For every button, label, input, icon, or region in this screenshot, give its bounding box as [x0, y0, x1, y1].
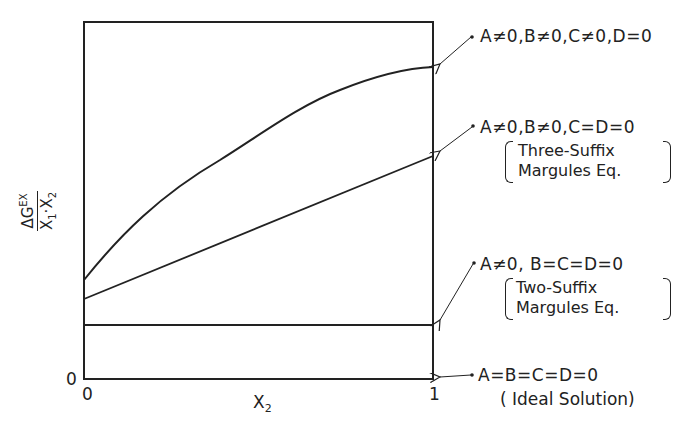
annotation-arrows — [440, 35, 476, 377]
bracket-left-two-suffix — [505, 278, 513, 320]
x-tick-0: 0 — [82, 384, 93, 404]
bracket-left-three-suffix — [505, 141, 513, 183]
y-axis-label-denominator: X1·X2 — [38, 192, 62, 230]
arrow-ideal — [440, 375, 471, 377]
annotation-two-suffix-note-2: Margules Eq. — [516, 298, 619, 318]
line-three-suffix — [84, 156, 433, 299]
curve-four-param — [84, 67, 433, 280]
y-axis-label-numerator: ΔGEX — [16, 191, 38, 230]
annotation-three-suffix-note-2: Margules Eq. — [518, 161, 621, 181]
x-axis-label: X2 — [253, 392, 272, 415]
y-tick-0: 0 — [66, 369, 77, 389]
y-axis-label: ΔGEX X1·X2 — [16, 184, 66, 238]
bracket-right-two-suffix — [663, 278, 671, 320]
diagram-canvas — [0, 0, 697, 425]
annotation-three-suffix-note-1: Three-Suffix — [518, 141, 615, 161]
annotation-two-suffix-condition: A≠0, B=C=D=0 — [480, 254, 624, 274]
arrow-two-suffix — [440, 264, 473, 320]
annotation-ideal-condition: A=B=C=D=0 — [478, 365, 599, 385]
arrow-four-param — [440, 37, 471, 64]
annotation-ideal-note: ( Ideal Solution) — [500, 389, 635, 409]
bracket-right-three-suffix — [663, 141, 671, 183]
annotation-four-param-condition: A≠0,B≠0,C≠0,D=0 — [480, 26, 652, 46]
annotation-three-suffix-condition: A≠0,B≠0,C=D=0 — [480, 117, 635, 137]
arrow-three-suffix — [440, 127, 472, 151]
annotation-two-suffix-note-1: Two-Suffix — [516, 278, 597, 298]
x-tick-1: 1 — [429, 384, 440, 404]
